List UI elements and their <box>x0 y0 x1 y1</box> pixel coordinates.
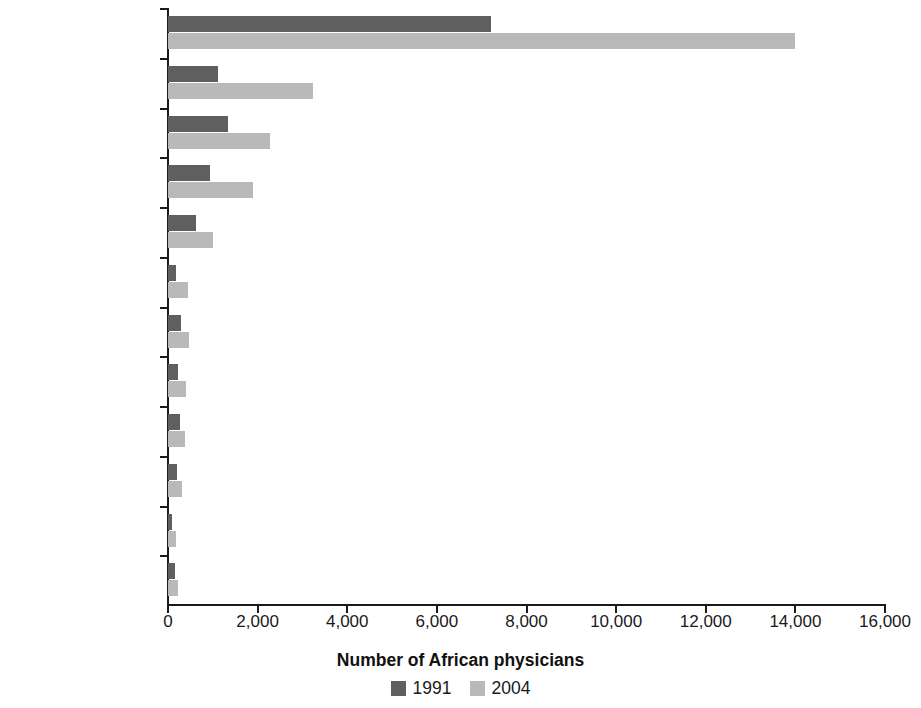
x-axis-label: 8,000 <box>505 612 548 632</box>
y-axis-tick <box>160 356 168 358</box>
bar-1991-australia <box>168 165 210 181</box>
bar-2004-germany <box>168 431 185 447</box>
y-axis-tick <box>160 406 168 408</box>
bar-1991-belgium <box>168 464 177 480</box>
category-band: Germany <box>168 406 885 456</box>
y-axis-tick <box>160 555 168 557</box>
y-axis-tick <box>160 257 168 259</box>
legend-swatch-icon <box>391 681 406 696</box>
x-axis-title: Number of African physicians <box>0 650 921 671</box>
category-band: Italy <box>168 307 885 357</box>
chart-legend: 19912004 <box>0 678 921 699</box>
x-axis-label: 4,000 <box>326 612 369 632</box>
x-axis-label: 10,000 <box>590 612 642 632</box>
y-axis-tick <box>160 157 168 159</box>
bar-2004-canada <box>168 133 270 149</box>
bar-2004-portugal <box>168 381 186 397</box>
y-axis-tick <box>160 58 168 60</box>
bar-2004-sweden <box>168 580 178 596</box>
bar-2004-italy <box>168 332 189 348</box>
x-axis-label: 2,000 <box>236 612 279 632</box>
category-band: Australia <box>168 157 885 207</box>
y-axis-tick <box>160 456 168 458</box>
x-axis-label: 14,000 <box>769 612 821 632</box>
category-band: Sweden <box>168 555 885 605</box>
bar-2004-france <box>168 531 176 547</box>
legend-label: 2004 <box>492 678 531 699</box>
legend-item-1991: 1991 <box>391 678 452 699</box>
y-axis-tick <box>160 307 168 309</box>
y-axis-tick <box>160 108 168 110</box>
bar-2004-australia <box>168 182 253 198</box>
bar-1991-italy <box>168 315 181 331</box>
bar-1991-france <box>168 514 172 530</box>
legend-label: 1991 <box>413 678 452 699</box>
bar-1991-portugal <box>168 364 178 380</box>
bar-1991-united-states <box>168 66 218 82</box>
legend-item-2004: 2004 <box>470 678 531 699</box>
category-band: United States <box>168 58 885 108</box>
category-band: France <box>168 506 885 556</box>
bar-2004-belgium <box>168 481 182 497</box>
bar-1991-ireland <box>168 265 176 281</box>
x-axis-label: 0 <box>163 612 172 632</box>
bar-1991-germany <box>168 414 180 430</box>
bar-1991-united-kingdom <box>168 16 491 32</box>
bar-1991-canada <box>168 116 228 132</box>
x-axis-label: 12,000 <box>680 612 732 632</box>
bar-2004-united-kingdom <box>168 33 795 49</box>
y-axis-tick <box>160 8 168 10</box>
bar-2004-united-states <box>168 83 313 99</box>
y-axis-tick <box>160 207 168 209</box>
plot-area: United KingdomUnited StatesCanadaAustral… <box>168 8 885 605</box>
category-band: United Kingdom <box>168 8 885 58</box>
legend-swatch-icon <box>470 681 485 696</box>
category-band: Belgium <box>168 456 885 506</box>
bar-chart: United KingdomUnited StatesCanadaAustral… <box>0 0 921 708</box>
x-axis-label: 16,000 <box>859 612 911 632</box>
x-axis-label: 6,000 <box>416 612 459 632</box>
bar-1991-new-zealand <box>168 215 196 231</box>
y-axis-tick <box>160 506 168 508</box>
category-band: Canada <box>168 108 885 158</box>
category-band: Portugal <box>168 356 885 406</box>
category-band: New Zealand <box>168 207 885 257</box>
bar-2004-ireland <box>168 282 188 298</box>
bar-1991-sweden <box>168 563 175 579</box>
bar-2004-new-zealand <box>168 232 213 248</box>
category-band: Ireland <box>168 257 885 307</box>
